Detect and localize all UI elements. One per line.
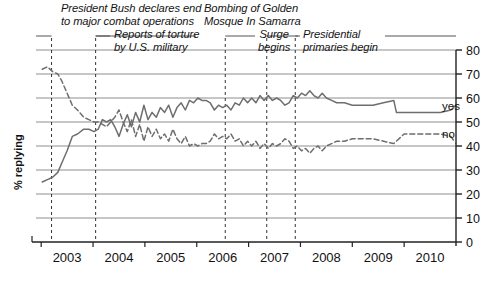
annotation-bush-line1: President Bush declares end xyxy=(61,2,201,14)
annotation-samarra-line1: Bombing of Golden xyxy=(204,2,298,14)
y-axis-label: 10 xyxy=(466,212,480,226)
y-axis-label: 80 xyxy=(466,44,480,58)
y-axis-title: % replying xyxy=(12,134,24,190)
x-axis-label: 2009 xyxy=(364,250,393,265)
annotation-torture-reports: Reports of tortureby U.S. military xyxy=(114,28,199,53)
annotation-torture-line1: Reports of torture xyxy=(114,28,199,40)
y-axis-label: 50 xyxy=(466,116,480,130)
annotation-primaries-line2: primaries begin xyxy=(303,41,378,53)
series-label-no: no xyxy=(442,128,455,140)
x-axis-label: 2004 xyxy=(105,250,134,265)
annotation-surge-line2: begins xyxy=(258,41,290,53)
x-axis-label: 2003 xyxy=(53,250,82,265)
x-axis-label: 2010 xyxy=(416,250,445,265)
chart-canvas: 0102030405060708020032004200520062007200… xyxy=(0,0,504,282)
chart-container: 0102030405060708020032004200520062007200… xyxy=(0,0,504,282)
y-axis-label: 30 xyxy=(466,164,480,178)
annotation-samarra-bombing: Bombing of GoldenMosque In Samarra xyxy=(204,2,301,27)
series-label-yes: yes xyxy=(442,100,460,112)
annotation-surge-begins: Surgebegins xyxy=(258,28,290,53)
y-axis-label: 0 xyxy=(466,236,473,250)
annotation-primaries-line1: Presidential xyxy=(303,28,360,40)
y-axis-label: 70 xyxy=(466,68,480,82)
x-axis-label: 2007 xyxy=(260,250,289,265)
y-axis-label: 20 xyxy=(466,188,480,202)
x-axis-label: 2008 xyxy=(312,250,341,265)
annotation-torture-line2: by U.S. military xyxy=(114,41,188,53)
series-line-yes xyxy=(42,91,451,182)
annotation-primaries-begin: Presidentialprimaries begin xyxy=(303,28,378,53)
annotation-bush-line2: to major combat operations xyxy=(61,15,194,27)
annotation-bush-combat: President Bush declares endto major comb… xyxy=(61,2,201,27)
annotation-surge-line1: Surge xyxy=(260,28,289,40)
y-axis-label: 40 xyxy=(466,140,480,154)
annotation-samarra-line2: Mosque In Samarra xyxy=(204,15,301,27)
series-line-no xyxy=(42,67,451,153)
y-axis-label: 60 xyxy=(466,92,480,106)
x-axis-label: 2006 xyxy=(208,250,237,265)
x-axis-label: 2005 xyxy=(156,250,185,265)
